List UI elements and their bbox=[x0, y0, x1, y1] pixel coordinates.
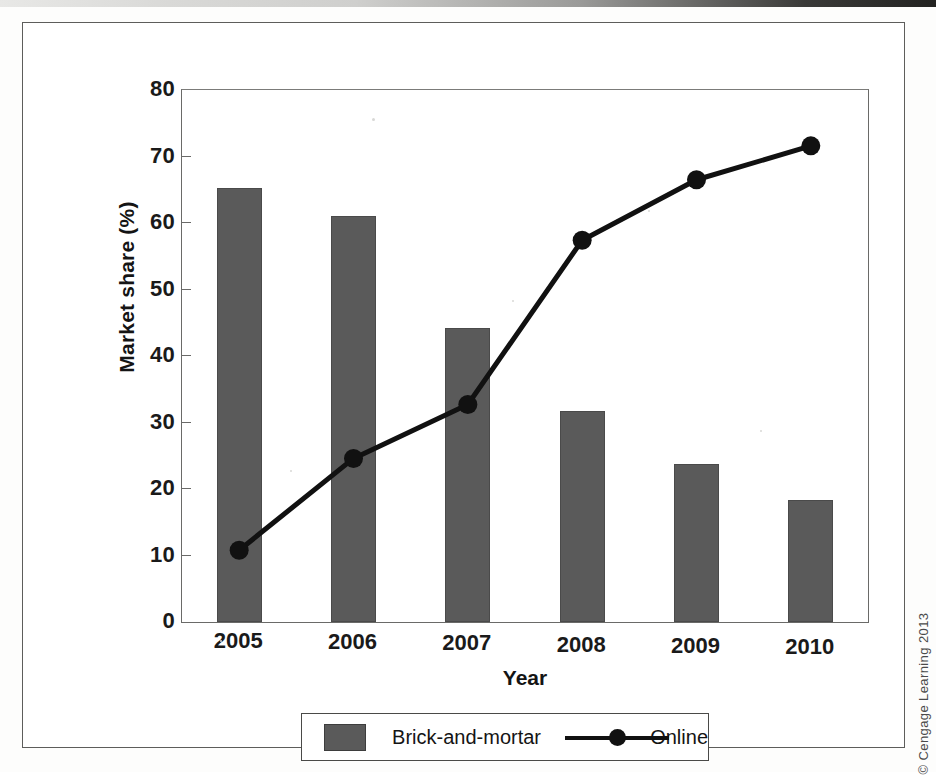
legend-label-brick-and-mortar: Brick-and-mortar bbox=[392, 726, 541, 749]
y-tick-label-60: 60 bbox=[150, 209, 175, 235]
online-marker-2010 bbox=[801, 136, 820, 155]
scan-speck bbox=[760, 430, 762, 432]
x-axis-tick-labels: 200520062007200820092010 bbox=[181, 627, 869, 661]
y-tick-label-70: 70 bbox=[150, 143, 175, 169]
online-marker-2007 bbox=[458, 395, 477, 414]
legend-line-marker-icon bbox=[609, 729, 626, 746]
plot-area-frame bbox=[181, 89, 869, 623]
y-tick-label-40: 40 bbox=[150, 342, 175, 368]
scan-speck bbox=[512, 300, 514, 302]
x-tick-label-2006: 2006 bbox=[328, 629, 377, 655]
scan-speck bbox=[648, 210, 650, 212]
online-marker-2009 bbox=[687, 170, 706, 189]
online-marker-2005 bbox=[230, 541, 249, 560]
legend-swatch-online bbox=[565, 727, 630, 747]
online-marker-2006 bbox=[344, 449, 363, 468]
figure-frame: Market share (%) 01020304050607080 20052… bbox=[22, 22, 905, 748]
y-tick-label-50: 50 bbox=[150, 276, 175, 302]
x-tick-label-2008: 2008 bbox=[557, 632, 606, 658]
plot-area bbox=[182, 90, 868, 622]
y-tick-label-20: 20 bbox=[150, 475, 175, 501]
y-tick-label-80: 80 bbox=[150, 76, 175, 102]
y-tick-mark-30 bbox=[181, 422, 191, 423]
scan-speck bbox=[372, 118, 375, 121]
y-tick-label-10: 10 bbox=[150, 542, 175, 568]
online-marker-2008 bbox=[573, 231, 592, 250]
x-axis-title: Year bbox=[181, 666, 869, 690]
scan-speck bbox=[220, 640, 222, 642]
chart-legend: Brick-and-mortar Online bbox=[301, 713, 709, 761]
x-tick-label-2007: 2007 bbox=[442, 630, 491, 656]
x-tick-label-2009: 2009 bbox=[671, 633, 720, 659]
copyright-notice: © Cengage Learning 2013 bbox=[916, 585, 931, 775]
y-tick-mark-60 bbox=[181, 222, 191, 223]
online-line-path bbox=[239, 146, 811, 550]
online-line-series bbox=[182, 90, 868, 622]
scan-speck bbox=[290, 470, 292, 472]
scan-edge-band bbox=[0, 0, 936, 7]
y-tick-mark-10 bbox=[181, 555, 191, 556]
y-tick-label-0: 0 bbox=[162, 608, 175, 634]
y-tick-label-30: 30 bbox=[150, 409, 175, 435]
y-tick-mark-20 bbox=[181, 488, 191, 489]
x-tick-label-2010: 2010 bbox=[785, 634, 834, 660]
legend-swatch-brick-and-mortar bbox=[324, 724, 366, 751]
y-tick-mark-50 bbox=[181, 289, 191, 290]
y-tick-mark-40 bbox=[181, 355, 191, 356]
y-axis-tick-labels: 01020304050607080 bbox=[127, 89, 175, 623]
y-tick-mark-70 bbox=[181, 156, 191, 157]
